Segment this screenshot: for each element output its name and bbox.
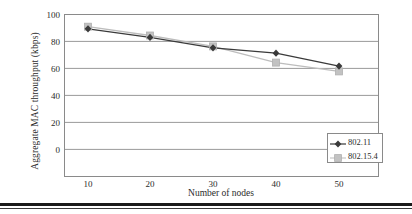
legend-label-802-15-4: 802.15.4 xyxy=(348,152,378,161)
bottom-divider-thin xyxy=(0,208,412,209)
x-axis-label: Number of nodes xyxy=(64,188,378,198)
legend-item-802-15-4: 802.15.4 xyxy=(328,149,382,163)
legend-item-802-11: 802.11 xyxy=(328,135,382,149)
legend-key-diamond-icon xyxy=(328,136,348,148)
chart-figure: Aggregate MAC throughput (kbps) 100 80 6… xyxy=(0,0,412,214)
chart-legend: 802.11 802.15.4 xyxy=(327,133,383,163)
legend-key-square-icon xyxy=(328,150,348,162)
legend-label-802-11: 802.11 xyxy=(348,138,371,147)
bottom-divider-thick xyxy=(0,203,412,206)
